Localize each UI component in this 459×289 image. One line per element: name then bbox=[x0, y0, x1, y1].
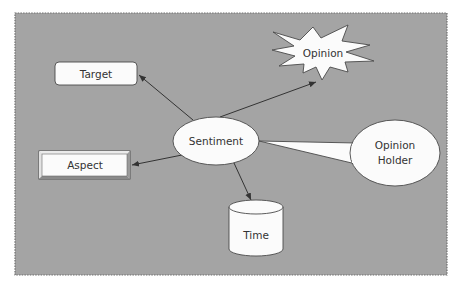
time-node[interactable]: Time bbox=[229, 200, 283, 256]
sentiment-label: Sentiment bbox=[189, 135, 243, 147]
target-label: Target bbox=[79, 68, 112, 80]
opinion-holder-ellipse bbox=[350, 120, 440, 186]
aspect-bevel-top bbox=[39, 151, 130, 154]
aspect-bevel-right bbox=[127, 151, 130, 179]
opinion-holder-label-line2: Holder bbox=[378, 154, 413, 166]
sentiment-diagram: Opinion Holder Sentiment Target Aspect O… bbox=[0, 0, 459, 289]
callout-seam-cover bbox=[352, 144, 358, 163]
aspect-node[interactable]: Aspect bbox=[39, 151, 130, 179]
aspect-bevel-left bbox=[39, 151, 42, 179]
aspect-label: Aspect bbox=[67, 159, 103, 171]
opinion-holder-label-line1: Opinion bbox=[375, 139, 416, 151]
aspect-bevel-bottom bbox=[39, 176, 130, 179]
time-cylinder-top bbox=[229, 200, 283, 214]
time-label: Time bbox=[242, 229, 269, 241]
sentiment-node[interactable]: Sentiment bbox=[173, 117, 259, 165]
target-node[interactable]: Target bbox=[55, 62, 137, 85]
opinion-label: Opinion bbox=[303, 47, 344, 59]
